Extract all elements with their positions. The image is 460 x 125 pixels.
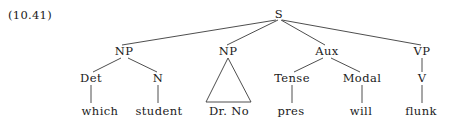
tree-node-vp: VP — [414, 46, 431, 58]
tree-node-modal: Modal — [343, 73, 382, 85]
tree-node-root-s: S — [275, 9, 283, 21]
tree-leaf-will: will — [350, 106, 372, 118]
tree-leaf-dr-no: Dr. No — [209, 106, 249, 118]
np-abbreviation-triangle — [206, 58, 251, 102]
tree-node-np-subject: NP — [115, 46, 134, 58]
tree-leaf-flunk: flunk — [405, 106, 437, 118]
tree-node-n: N — [153, 73, 163, 85]
tree-leaf-which: which — [82, 106, 119, 118]
tree-node-tense: Tense — [274, 73, 310, 85]
branch-line-aux-to-tense — [294, 58, 323, 72]
tree-node-np-object: NP — [219, 46, 238, 58]
branch-line-aux-to-modal — [331, 58, 360, 72]
tree-node-det: Det — [80, 73, 102, 85]
tree-node-v: V — [418, 73, 427, 85]
syntax-tree-figure: (10.41) SNPNPAuxVPDetNTenseModalV whichs… — [0, 0, 460, 125]
tree-leaf-pres: pres — [277, 106, 304, 118]
branch-line-np-to-n — [128, 58, 157, 72]
branch-line-np-to-det — [93, 58, 121, 72]
tree-leaf-student: student — [136, 106, 183, 118]
tree-node-aux: Aux — [315, 46, 338, 58]
